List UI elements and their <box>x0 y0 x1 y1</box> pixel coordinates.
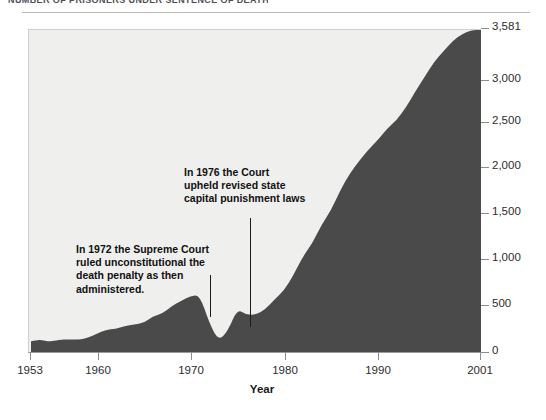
figure-caption-text: NUMBER OF PRISONERS UNDER SENTENCE OF DE… <box>8 0 268 5</box>
x-tick-mark <box>98 352 99 360</box>
x-axis-title: Year <box>250 383 274 395</box>
x-tick-mark <box>30 352 31 360</box>
y-tick-mark <box>481 305 489 306</box>
annotation-1976: In 1976 the Court upheld revised state c… <box>184 166 344 206</box>
y-tick-mark <box>481 259 489 260</box>
x-tick-label-1970: 1970 <box>178 364 204 376</box>
x-tick-label-1980: 1980 <box>272 364 298 376</box>
y-tick-mark <box>481 167 489 168</box>
figure-caption-clipped: NUMBER OF PRISONERS UNDER SENTENCE OF DE… <box>8 0 268 5</box>
x-tick-label-1960: 1960 <box>85 364 111 376</box>
y-tick-label-2500: 2,500 <box>492 115 521 126</box>
header-divider <box>22 12 530 13</box>
x-tick-mark <box>191 352 192 360</box>
annotation-1972-leader-line <box>210 275 211 317</box>
y-tick-mark <box>481 213 489 214</box>
x-tick-label-2001: 2001 <box>467 364 493 376</box>
x-tick-mark <box>480 352 481 360</box>
y-tick-label-1500: 1,500 <box>492 206 521 217</box>
annotation-1972: In 1972 the Supreme Court ruled unconsti… <box>76 243 256 296</box>
y-tick-label-3581: 3,581 <box>492 21 521 32</box>
x-axis-line <box>28 352 483 353</box>
x-tick-label-1990: 1990 <box>365 364 391 376</box>
y-tick-label-2000: 2,000 <box>492 160 521 171</box>
x-tick-mark <box>285 352 286 360</box>
y-tick-label-0: 0 <box>492 345 498 356</box>
y-tick-mark <box>481 28 489 29</box>
chart-figure: NUMBER OF PRISONERS UNDER SENTENCE OF DE… <box>0 0 546 420</box>
y-tick-mark <box>481 122 489 123</box>
x-tick-label-1953: 1953 <box>17 364 43 376</box>
y-tick-label-1000: 1,000 <box>492 252 521 263</box>
y-tick-label-3000: 3,000 <box>492 73 521 84</box>
y-tick-mark <box>481 352 489 353</box>
y-tick-label-500: 500 <box>492 298 511 309</box>
annotation-1976-leader-line <box>250 218 251 327</box>
y-tick-mark <box>481 80 489 81</box>
x-tick-mark <box>378 352 379 360</box>
